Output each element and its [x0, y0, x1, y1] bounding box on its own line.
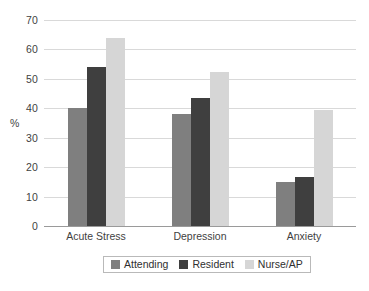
bar-chart: % 010203040506070 Acute StressDepression…: [0, 0, 369, 291]
y-axis-tick-label: 10: [4, 192, 38, 202]
bar-group: [172, 20, 229, 226]
y-axis-tick-label: 0: [4, 221, 38, 231]
y-axis-tick-label: 70: [4, 15, 38, 25]
bar: [106, 38, 125, 226]
legend-swatch-icon: [111, 260, 120, 269]
bar-group: [68, 20, 125, 226]
y-axis-tick-label: 30: [4, 133, 38, 143]
bar: [68, 108, 87, 226]
bar: [172, 114, 191, 226]
legend-swatch-icon: [245, 260, 254, 269]
x-axis-tick-labels: Acute StressDepressionAnxiety: [44, 230, 356, 246]
axis-baseline: [44, 226, 356, 227]
legend-item: Nurse/AP: [245, 259, 303, 270]
bar: [314, 110, 333, 226]
legend-label: Nurse/AP: [258, 259, 303, 270]
y-axis-tick-label: 40: [4, 103, 38, 113]
y-axis-tick-label: 20: [4, 162, 38, 172]
chart-legend: AttendingResidentNurse/AP: [103, 256, 311, 273]
plot-area: [44, 20, 356, 226]
legend-label: Resident: [192, 259, 233, 270]
bar: [191, 98, 210, 226]
y-axis-tick-labels: 010203040506070: [0, 20, 38, 226]
y-axis-tick-label: 50: [4, 74, 38, 84]
bar: [276, 182, 295, 226]
x-axis-tick-label: Depression: [148, 230, 252, 243]
y-axis-tick-label: 60: [4, 44, 38, 54]
legend-swatch-icon: [179, 260, 188, 269]
bar: [210, 72, 229, 227]
bar: [295, 177, 314, 226]
legend-item: Resident: [179, 259, 233, 270]
bar-group: [276, 20, 333, 226]
legend-item: Attending: [111, 259, 168, 270]
bar: [87, 67, 106, 226]
x-axis-tick-label: Anxiety: [252, 230, 356, 243]
x-axis-tick-label: Acute Stress: [44, 230, 148, 243]
legend-label: Attending: [124, 259, 168, 270]
